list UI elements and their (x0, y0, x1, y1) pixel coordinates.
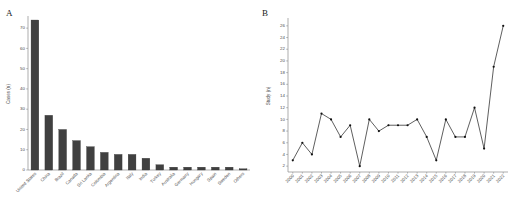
data-point (311, 153, 313, 155)
bar (87, 147, 95, 170)
year-label: 2010 (380, 173, 391, 184)
category-label: United States (15, 171, 38, 194)
data-point (454, 136, 456, 138)
data-point (378, 130, 380, 132)
year-label: 2000 (285, 173, 296, 184)
data-point (301, 142, 303, 144)
y-tick-label: 10 (20, 147, 25, 152)
y-tick-label: 18 (280, 70, 285, 75)
y-tick-label: 22 (280, 46, 285, 51)
y-tick-label: 8 (283, 128, 286, 133)
year-label: 2017 (447, 173, 458, 184)
data-point (349, 124, 351, 126)
panel-a-y-axis-title: Cases (n) (6, 84, 11, 104)
bar (198, 167, 206, 170)
category-label: Others (232, 171, 245, 184)
y-axis-title-text: Study (n) (266, 86, 271, 105)
y-tick-label: 10 (280, 117, 285, 122)
year-label: 2016 (438, 173, 449, 184)
data-point (493, 66, 495, 68)
y-tick-label: 60 (20, 46, 25, 51)
bar (170, 167, 178, 170)
year-label: 2020 (476, 173, 487, 184)
data-point (340, 136, 342, 138)
bar (31, 20, 39, 170)
panel-b-year-labels: 2000200120022003200420052006200720082009… (285, 173, 506, 184)
panel-a-plot: 010203040506070 United StatesChinaBrazil… (0, 0, 258, 209)
year-label: 2022 (495, 173, 506, 184)
category-label: India (138, 171, 149, 182)
year-label: 2001 (294, 173, 305, 184)
year-label: 2021 (485, 173, 496, 184)
year-label: 2012 (399, 173, 410, 184)
year-label: 2019 (466, 173, 477, 184)
panel-b-series-line (293, 26, 503, 166)
panel-a-category-labels: United StatesChinaBrazilCanadaSri LankaC… (15, 171, 246, 194)
year-label: 2005 (332, 173, 343, 184)
bar (114, 154, 122, 170)
bar (239, 169, 247, 170)
y-tick-label: 2 (283, 163, 286, 168)
bar (142, 158, 150, 170)
category-label: Brazil (54, 171, 65, 182)
bar (73, 141, 81, 170)
data-point (416, 118, 418, 120)
data-point (464, 136, 466, 138)
y-tick-label: 40 (20, 86, 25, 91)
y-tick-label: 4 (283, 152, 286, 157)
y-tick-label: 50 (20, 66, 25, 71)
data-point (445, 118, 447, 120)
y-tick-label: 26 (280, 23, 285, 28)
bar (225, 167, 233, 170)
year-label: 2004 (323, 173, 334, 184)
bar (59, 129, 67, 170)
category-label: Argentina (104, 171, 121, 188)
data-point (483, 148, 485, 150)
category-label: Germany (173, 171, 190, 188)
bar (211, 167, 219, 170)
bar (184, 167, 192, 170)
panel-a-bar-chart: A 010203040506070 United StatesChinaBraz… (0, 0, 258, 209)
bar (45, 115, 53, 170)
year-label: 2011 (390, 173, 401, 184)
data-point (292, 159, 294, 161)
bar (100, 152, 108, 170)
y-tick-label: 16 (280, 81, 285, 86)
y-tick-label: 30 (20, 106, 25, 111)
y-tick-label: 20 (20, 127, 25, 132)
data-point (397, 124, 399, 126)
y-tick-label: 14 (280, 93, 285, 98)
figure-container: A 010203040506070 United StatesChinaBraz… (0, 0, 517, 209)
data-point (473, 107, 475, 109)
y-tick-label: 20 (280, 58, 285, 63)
y-tick-label: 12 (280, 105, 285, 110)
year-label: 2006 (342, 173, 353, 184)
year-label: 2013 (409, 173, 420, 184)
panel-b-plot: 2468101214161820222426 20002001200220032… (258, 0, 517, 209)
panel-a-axes: 010203040506070 (20, 16, 250, 172)
category-label: Italy (125, 171, 135, 181)
y-axis-title-text: Cases (n) (6, 84, 11, 104)
data-point (368, 118, 370, 120)
year-label: 2009 (371, 173, 382, 184)
panel-b-axes: 2468101214161820222426 (280, 18, 508, 174)
category-label: China (39, 171, 51, 183)
data-point (359, 165, 361, 167)
category-label: Hungary (188, 171, 204, 187)
y-tick-label: 70 (20, 25, 25, 30)
y-tick-label: 24 (280, 35, 285, 40)
y-tick-label: 6 (283, 140, 286, 145)
data-point (387, 124, 389, 126)
data-point (435, 159, 437, 161)
category-label: Spain (206, 171, 218, 183)
data-point (320, 112, 322, 114)
panel-b-data-points (292, 25, 505, 167)
category-label: Sweden (217, 171, 232, 186)
series-path (293, 26, 503, 166)
panel-b-line-chart: B 2468101214161820222426 200020012002200… (258, 0, 517, 209)
data-point (426, 136, 428, 138)
year-label: 2007 (351, 173, 362, 184)
year-label: 2002 (304, 173, 315, 184)
year-label: 2014 (418, 173, 429, 184)
year-label: 2003 (313, 173, 324, 184)
